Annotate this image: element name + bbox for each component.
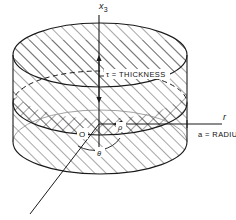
x3-axis-label: x3 xyxy=(99,2,108,13)
radius-label: a = RADIUS xyxy=(198,131,236,139)
thickness-label: τ = THICKNESS xyxy=(106,71,166,79)
theta-label: θ xyxy=(97,150,101,158)
cylinder-coordinate-diagram: x3 r τ = THICKNESS a = RADIUS O θ ρ xyxy=(0,0,236,220)
rho-label: ρ xyxy=(118,124,123,132)
r-axis-label: r xyxy=(223,113,226,122)
x3-axis-label-subscript: 3 xyxy=(104,6,108,13)
diagram-canvas xyxy=(0,0,236,220)
cylinder-body xyxy=(0,23,236,205)
origin-label: O xyxy=(79,131,85,139)
